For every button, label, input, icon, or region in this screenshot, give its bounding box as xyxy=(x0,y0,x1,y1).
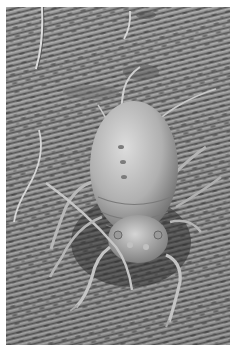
sem-photograph xyxy=(6,7,230,345)
aphid-illustration xyxy=(6,7,230,345)
